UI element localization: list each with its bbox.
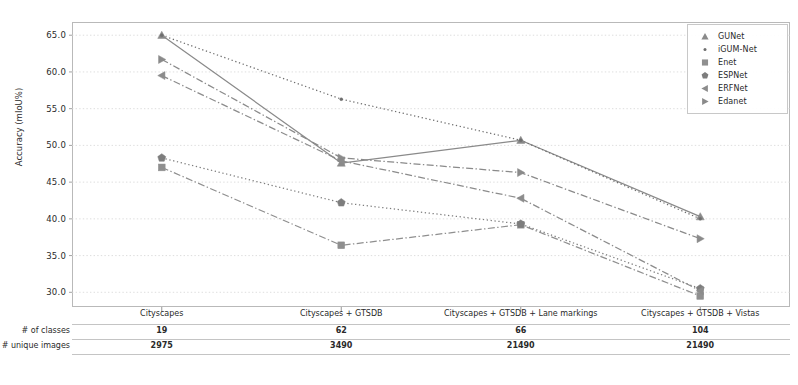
legend-item-espnet[interactable]: ESPNet [692, 69, 783, 82]
table-row-label: # unique images [0, 341, 70, 350]
series-line-erfnet [162, 76, 701, 291]
legend-item-edanet[interactable]: Edanet [692, 95, 783, 108]
table-header-row: CityscapesCityscapes + GTSDBCityscapes +… [72, 309, 790, 324]
table-cell: 21490 [686, 341, 714, 350]
legend-item-label: iGUM-Net [718, 45, 757, 54]
dot-marker-icon [692, 44, 718, 55]
dataset-summary-table: CityscapesCityscapes + GTSDBCityscapes +… [72, 309, 790, 355]
data-point-igum-net [160, 34, 163, 37]
triangle-right-marker-icon [692, 96, 718, 107]
table-cell: 3490 [330, 341, 352, 350]
table-column-header: Cityscapes + GTSDB + Vistas [641, 309, 759, 318]
legend-item-erfnet[interactable]: ERFNet [692, 82, 783, 95]
table-cell: 19 [156, 326, 167, 335]
table-cell: 62 [336, 326, 347, 335]
triangle-up-marker-icon [692, 31, 718, 42]
chart-screenshot: 30.035.040.045.050.055.060.065.0 Accurac… [0, 0, 798, 385]
data-point-enet [158, 164, 165, 171]
data-point-enet [338, 242, 345, 249]
legend-item-enet[interactable]: Enet [692, 56, 783, 69]
table-row-label: # of classes [0, 326, 70, 335]
data-point-espnet [517, 220, 525, 228]
legend-item-gunet[interactable]: GUNet [692, 30, 783, 43]
data-point-igum-net [699, 217, 702, 220]
triangle-left-marker-icon [692, 83, 718, 94]
legend-item-label: Edanet [718, 97, 747, 106]
data-point-edanet [518, 169, 525, 177]
data-point-erfnet [517, 194, 524, 202]
table-row: # unique images297534902149021490 [72, 339, 790, 354]
square-marker-icon [692, 57, 718, 68]
data-point-erfnet [158, 72, 165, 80]
series-line-igum-net [162, 35, 701, 219]
table-cell: 21490 [507, 341, 535, 350]
data-point-espnet [337, 199, 345, 207]
pentagon-marker-icon [692, 70, 718, 81]
data-point-igum-net [519, 139, 522, 142]
legend-item-label: ESPNet [718, 71, 748, 80]
legend-item-label: ERFNet [718, 84, 748, 93]
series-line-edanet [162, 59, 701, 238]
table-column-header: Cityscapes + GTSDB [300, 309, 383, 318]
table-divider [72, 354, 790, 355]
data-point-igum-net [340, 98, 343, 101]
data-point-edanet [159, 55, 166, 63]
table-column-header: Cityscapes + GTSDB + Lane markings [444, 309, 597, 318]
legend-item-label: Enet [718, 58, 737, 67]
series-line-gunet [162, 35, 701, 216]
legend-item-igum-net[interactable]: iGUM-Net [692, 43, 783, 56]
table-row: # of classes196266104 [72, 324, 790, 339]
table-column-header: Cityscapes [140, 309, 183, 318]
data-point-edanet [697, 235, 704, 243]
data-point-espnet [158, 154, 166, 162]
legend-item-label: GUNet [718, 32, 745, 41]
table-cell: 2975 [151, 341, 173, 350]
series-line-espnet [162, 158, 701, 289]
table-cell: 104 [692, 326, 709, 335]
table-cell: 66 [515, 326, 526, 335]
series-line-enet [162, 167, 701, 296]
legend: GUNetiGUM-NetEnetESPNetERFNetEdanet [687, 24, 788, 114]
